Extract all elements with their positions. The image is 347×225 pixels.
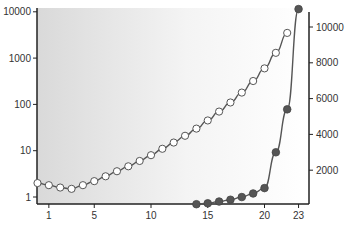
y-left-tick-label: 1000 [9, 53, 32, 64]
open-circle-marker [147, 152, 154, 159]
y-right-tick-label: 6000 [316, 93, 339, 104]
filled-circle-marker [215, 198, 223, 206]
x-tick-label: 10 [145, 210, 157, 221]
filled-circle-marker [261, 184, 269, 192]
y-left-tick-label: 100 [14, 99, 31, 110]
y-left-tick-label: 10 [20, 145, 32, 156]
open-circle-marker [227, 99, 234, 106]
y-right-tick-label: 4000 [316, 129, 339, 140]
filled-circle-marker [283, 106, 291, 114]
filled-circle-marker [295, 5, 303, 13]
open-circle-marker [136, 157, 143, 164]
y-right-tick-label: 2000 [316, 165, 339, 176]
open-circle-marker [261, 65, 268, 72]
open-circle-marker [79, 182, 86, 189]
filled-circle-marker [193, 200, 201, 208]
open-circle-marker [45, 182, 52, 189]
filled-circle-marker [238, 193, 246, 201]
open-circle-marker [193, 125, 200, 132]
y-left-tick-label: 10000 [3, 6, 31, 17]
open-circle-marker [91, 178, 98, 185]
filled-circle-marker [272, 149, 280, 157]
open-circle-marker [113, 168, 120, 175]
y-right-tick-label: 10000 [316, 22, 344, 33]
open-circle-marker [284, 29, 291, 36]
x-tick-label: 5 [91, 210, 97, 221]
open-circle-marker [181, 132, 188, 139]
filled-circle-marker [204, 200, 212, 208]
open-circle-marker [57, 184, 64, 191]
open-circle-marker [204, 117, 211, 124]
open-circle-marker [125, 163, 132, 170]
open-circle-marker [102, 173, 109, 180]
open-circle-marker [34, 179, 41, 186]
open-circle-marker [238, 89, 245, 96]
filled-circle-marker [249, 190, 257, 198]
open-circle-marker [170, 139, 177, 146]
x-tick-label: 1 [46, 210, 52, 221]
dual-axis-line-chart: 1510152023110100100010000200040006000800… [0, 0, 347, 225]
open-circle-marker [272, 49, 279, 56]
plot-area [37, 8, 309, 204]
open-circle-marker [216, 108, 223, 115]
y-right-tick-label: 8000 [316, 57, 339, 68]
x-tick-label: 20 [259, 210, 271, 221]
x-tick-label: 15 [202, 210, 214, 221]
open-circle-marker [250, 77, 257, 84]
filled-circle-marker [227, 196, 235, 204]
y-left-tick-label: 1 [25, 192, 31, 203]
open-circle-marker [159, 145, 166, 152]
open-circle-marker [68, 185, 75, 192]
x-tick-label: 23 [293, 210, 305, 221]
